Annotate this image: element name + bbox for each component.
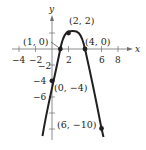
chart: x y −4 −2 2 6 8 −2 −4 −6 (1, 0) (2, 2) (…	[0, 0, 146, 150]
x-tick-label: 8	[115, 55, 121, 65]
y-tick-label: −2	[38, 61, 51, 71]
y-tick-label: −6	[33, 92, 47, 102]
x-axis-label: x	[135, 44, 140, 54]
x-tick-label: −4	[12, 55, 26, 65]
point-4-0	[83, 47, 88, 52]
y-axis-arrow-icon	[50, 15, 54, 21]
y-axis-label: y	[48, 4, 55, 14]
point-6-m10	[99, 126, 104, 131]
point-label-0-m4: (0, −4)	[54, 82, 88, 93]
point-1-0	[58, 47, 63, 52]
x-axis-arrow-icon	[127, 47, 133, 51]
x-tick-label: 2	[66, 55, 72, 65]
y-tick-label: −4	[33, 76, 47, 86]
x-tick-label: 6	[99, 55, 105, 65]
point-label-2-2: (2, 2)	[69, 15, 95, 26]
point-label-4-0: (4, 0)	[85, 36, 111, 47]
point-2-2	[66, 31, 71, 36]
point-label-1-0: (1, 0)	[23, 36, 49, 47]
point-label-6-m10: (6, −10)	[57, 119, 97, 130]
